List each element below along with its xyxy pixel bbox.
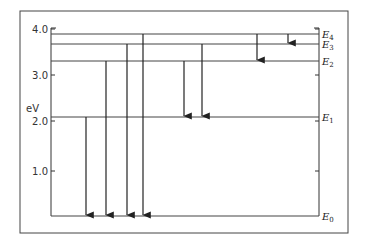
energy-level-label: E1 xyxy=(321,112,334,125)
y-tick-label: 1.0 xyxy=(32,166,48,177)
y-tick-label: 4.0 xyxy=(32,24,48,35)
y-tick-label: 2.0 xyxy=(32,116,48,127)
energy-level-label: E0 xyxy=(321,211,334,224)
energy-level-label: E2 xyxy=(321,56,334,69)
y-tick-label: 3.0 xyxy=(32,70,48,81)
energy-level-diagram: 4.03.02.01.0eVE0E1E2E3E4 xyxy=(0,0,366,242)
y-axis-unit-label: eV xyxy=(26,103,39,114)
plot-area: 4.03.02.01.0eVE0E1E2E3E4 xyxy=(26,24,334,224)
